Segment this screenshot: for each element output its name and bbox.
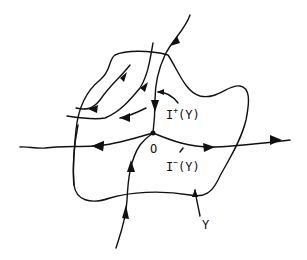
arrow-icon [192,189,198,197]
region-y-boundary [73,51,248,201]
label-i-minus: I−(Y) [166,158,200,174]
label-origin: O [150,142,157,156]
leader-line-i-minus [180,148,183,152]
arrow-icon [170,36,180,46]
label-i-plus: I+(Y) [166,106,200,122]
trajectory [76,65,130,109]
stable-manifold-bottom [116,133,153,248]
unstable-manifold-right [153,133,290,147]
unstable-manifold-left [20,133,153,148]
phase-portrait-diagram: I+(Y) I−(Y) O Y [0,0,307,260]
arrow-icon [92,141,104,151]
trajectory [67,43,153,119]
arrow-icon [120,113,130,122]
arrow-icon [122,205,129,219]
trajectory [73,125,78,185]
arrow-icon [151,100,159,112]
arrow-icon [270,135,282,145]
arrow-icon [127,160,135,172]
label-region-y: Y [202,218,210,232]
arrow-icon [203,143,215,152]
fixed-point-o [151,131,156,136]
arrow-icon [157,89,164,95]
